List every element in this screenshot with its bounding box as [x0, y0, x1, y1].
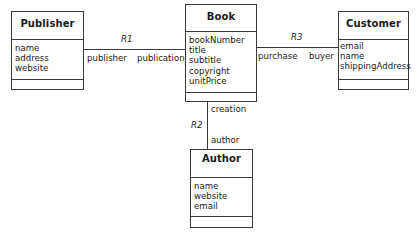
- association-line-r2: [207, 101, 208, 149]
- class-name: Customer: [339, 12, 408, 40]
- role-label-author: author: [211, 135, 239, 145]
- attribute-list: bookNumber title subtitle copyright unit…: [186, 32, 256, 93]
- attribute: name: [194, 181, 252, 191]
- class-name: Book: [186, 5, 256, 32]
- role-label-purchase: purchase: [258, 51, 297, 61]
- class-publisher[interactable]: Publisher name address website: [11, 11, 84, 90]
- role-label-publication: publication: [137, 53, 185, 63]
- attribute: bookNumber: [189, 35, 256, 45]
- association-label-r3: R3: [291, 32, 302, 42]
- role-label-creation: creation: [211, 104, 246, 114]
- attribute: website: [15, 63, 83, 73]
- role-label-buyer: buyer: [309, 51, 334, 61]
- association-label-r1: R1: [121, 34, 132, 44]
- association-label-r2: R2: [191, 120, 202, 130]
- attribute: unitPrice: [189, 76, 256, 86]
- attribute: email: [194, 201, 252, 211]
- association-line-r3: [256, 47, 338, 48]
- attribute-list: email name shippingAddress: [339, 40, 408, 80]
- attribute-list: name website email: [191, 178, 252, 217]
- attribute: name: [15, 43, 83, 53]
- class-diagram: R1 publisher publication R3 purchase buy…: [0, 0, 418, 238]
- attribute: title: [189, 45, 256, 55]
- attribute: subtitle: [189, 55, 256, 65]
- class-name: Author: [191, 150, 252, 178]
- attribute: copyright: [189, 66, 256, 76]
- class-customer[interactable]: Customer email name shippingAddress: [338, 11, 409, 90]
- attribute: address: [15, 53, 83, 63]
- association-line-r1: [83, 49, 185, 50]
- attribute: shippingAddress: [340, 61, 408, 71]
- attribute: email: [340, 41, 408, 51]
- attribute-list: name address website: [12, 40, 83, 80]
- class-name: Publisher: [12, 12, 83, 40]
- attribute: name: [340, 51, 408, 61]
- role-label-publisher: publisher: [87, 53, 127, 63]
- class-book[interactable]: Book bookNumber title subtitle copyright…: [185, 4, 257, 102]
- attribute: website: [194, 191, 252, 201]
- class-author[interactable]: Author name website email: [190, 149, 253, 228]
